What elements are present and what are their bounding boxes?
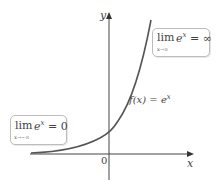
curve-label-exponent: x [167, 93, 171, 101]
lim-expression: ex = 0 [34, 119, 68, 133]
y-axis-label: y [100, 9, 106, 22]
lim-subscript: x→∞ [157, 46, 168, 52]
lim-rhs: = 0 [44, 120, 67, 133]
x-axis-label: x [187, 157, 193, 170]
lim-subscript: x→−∞ [14, 134, 29, 140]
curve-label: f(x) = ex [129, 93, 171, 105]
lim-expression: ex = ∞ [176, 31, 212, 45]
limit-box-zero: lim x→−∞ ex = 0 [10, 115, 67, 145]
y-axis-arrow-icon [106, 12, 112, 19]
origin-label: 0 [101, 155, 107, 166]
lim-text: lim [15, 119, 32, 132]
limit-box-infinity: lim x→∞ ex = ∞ [152, 28, 210, 57]
curve-label-text: f(x) = e [129, 94, 167, 105]
lim-rhs: = ∞ [186, 32, 211, 45]
lim-text: lim [157, 31, 174, 44]
